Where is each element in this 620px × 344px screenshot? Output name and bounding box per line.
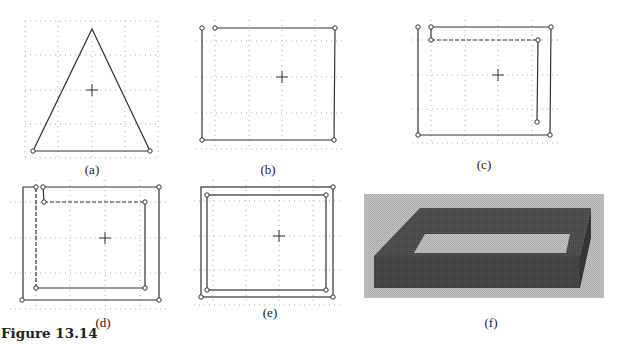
- center-cross-icon: [276, 71, 288, 83]
- panel-e: [194, 180, 342, 305]
- panel-a: [25, 21, 158, 158]
- panel-d: [10, 180, 168, 309]
- panel-f-label: (f): [485, 315, 498, 331]
- center-cross-icon: [86, 84, 98, 96]
- center-cross-icon: [492, 69, 504, 81]
- dotted-grid: [196, 20, 342, 149]
- rectangle-profile: [202, 28, 335, 140]
- panel-d-label: (d): [95, 315, 110, 331]
- panel-f: [364, 194, 604, 298]
- center-cross-icon: [99, 232, 111, 244]
- inner-profile: [207, 195, 326, 290]
- panel-e-label: (e): [263, 305, 277, 321]
- offset-path: [537, 40, 538, 122]
- figure-caption: Figure 13.14: [1, 325, 98, 341]
- vertex-markers: [416, 25, 553, 137]
- outer-profile: [418, 27, 551, 135]
- panel-a-label: (a): [85, 162, 99, 178]
- vertex-markers: [200, 26, 337, 142]
- panel-c: [412, 20, 558, 143]
- vertex-markers: [199, 185, 335, 299]
- frame-opening: [414, 234, 570, 253]
- dotted-grid: [194, 180, 342, 305]
- panel-c-label: (c): [477, 157, 491, 173]
- panel-b-label: (b): [260, 162, 275, 178]
- offset-path: [36, 202, 145, 288]
- center-cross-icon: [273, 230, 285, 242]
- frame-front-face: [374, 256, 580, 288]
- panel-b: [196, 20, 342, 149]
- vertex-markers: [20, 185, 161, 302]
